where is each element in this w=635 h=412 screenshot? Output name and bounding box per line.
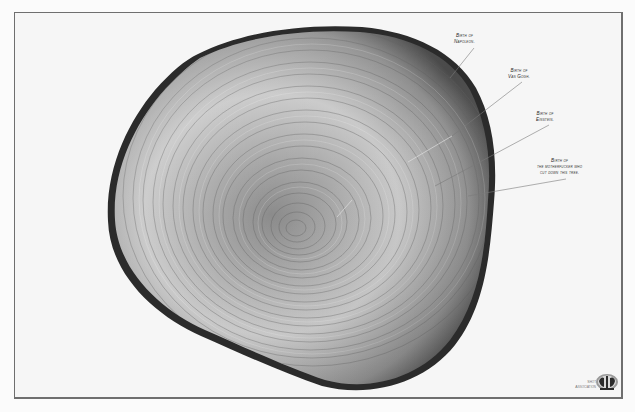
annotation-cutter-line3: cut down this tree.	[537, 170, 582, 176]
annotation-einstein-line2: Einstein.	[536, 117, 554, 123]
annotation-van-gogh: Birth of Van Gogh.	[508, 68, 530, 80]
organization-logo-icon	[595, 372, 619, 394]
logo-caption: Shot Association	[572, 380, 596, 390]
annotation-napoleon: Birth of Napoleon.	[454, 33, 475, 45]
tree-ring-cross-section-icon	[0, 0, 635, 412]
annotation-van-gogh-line2: Van Gogh.	[508, 74, 530, 80]
logo-line2: Association	[572, 385, 596, 390]
annotation-cutter: Birth of the motherfucker who cut down t…	[537, 158, 582, 176]
annotation-napoleon-line2: Napoleon.	[454, 39, 475, 45]
annotation-einstein: Birth of Einstein.	[536, 111, 554, 123]
